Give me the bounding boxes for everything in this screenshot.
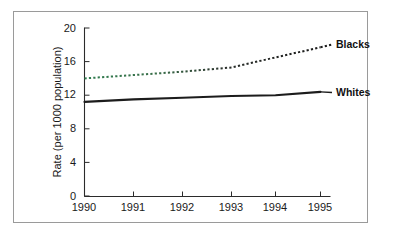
x-tick-label-1995: 1995 — [308, 201, 332, 213]
x-tick-label-1990: 1990 — [72, 201, 96, 213]
x-tick-marks — [85, 192, 321, 197]
series-label-whites: Whites — [336, 86, 371, 98]
x-tick-label-1993: 1993 — [219, 201, 243, 213]
x-tick-label-1994: 1994 — [263, 201, 287, 213]
series-label-blacks: Blacks — [336, 38, 370, 50]
y-tick-label-4: 4 — [70, 156, 76, 168]
x-tick-label-1992: 1992 — [170, 201, 194, 213]
y-tick-label-16: 16 — [64, 55, 76, 67]
series-line-blacks — [85, 47, 321, 78]
y-tick-label-20: 20 — [64, 22, 76, 34]
chart-figure: Rate (per 1000 population) 20 16 12 8 4 … — [0, 0, 409, 242]
leader-line-whites — [321, 92, 333, 93]
line-chart: Rate (per 1000 population) 20 16 12 8 4 … — [0, 0, 409, 242]
y-tick-marks — [85, 28, 90, 196]
y-tick-label-12: 12 — [64, 88, 76, 100]
series-line-whites — [85, 92, 321, 102]
y-tick-label-8: 8 — [70, 122, 76, 134]
leader-line-blacks — [321, 45, 333, 48]
x-tick-label-1991: 1991 — [121, 201, 145, 213]
y-axis-title: Rate (per 1000 population) — [51, 47, 63, 178]
